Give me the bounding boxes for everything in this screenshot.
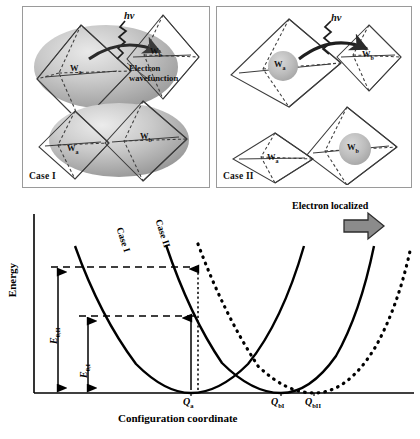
configuration-coordinate-figure: hv Electron wavefunction Wa Wb Wa Wb Cas… [0,0,420,439]
photon-label-case-2: hv [331,12,342,23]
energy-vs-configuration-plot [0,196,420,439]
case-2-label: Case II [223,171,254,181]
xtick-label-QbI: QbI [271,396,284,409]
site-label-Wb-lower-case2: Wb [347,142,359,154]
energy-label-case-1: E0,I [78,364,91,378]
photon-label-case-1: hv [124,10,135,21]
curve-case-1-excited [166,245,374,393]
xtick-label-Qa: Qa [183,396,193,409]
site-label-Wb-upper-case1: Wb [150,46,162,58]
electron-localized-label: Electron localized [292,200,368,211]
site-label-Wa-upper-case2: Wa [274,59,286,71]
photon-squiggle-2 [323,21,331,54]
case-1-label: Case I [29,171,56,181]
configuration-coordinate-diagram: Energy Configuration coordinate Qa QbI Q… [0,196,420,439]
site-label-Wa-upper-case1: Wa [70,63,82,75]
panel-case-2: hv Wa Wb Wa Wb Case II [216,6,412,188]
x-axis-title: Configuration coordinate [118,412,237,424]
site-label-Wa-lower-case2: Wa [267,152,279,164]
electron-wavefunction-label: Electron wavefunction [129,63,209,83]
xtick-label-QbII: QbII [305,396,321,409]
electron-localized-arrow [344,213,384,239]
site-label-Wb-lower-case1: Wb [140,131,152,143]
panel-case-1: hv Electron wavefunction Wa Wb Wa Wb Cas… [22,6,210,188]
case-1-illustration [23,7,207,185]
curve-ground-state [75,246,304,393]
site-label-Wa-lower-case1: Wa [67,143,79,155]
y-axis-title: Energy [6,250,18,310]
energy-label-case-2: E0,II [48,327,61,344]
case-2-illustration [217,7,409,185]
site-label-Wb-upper-case2: Wb [362,49,374,61]
